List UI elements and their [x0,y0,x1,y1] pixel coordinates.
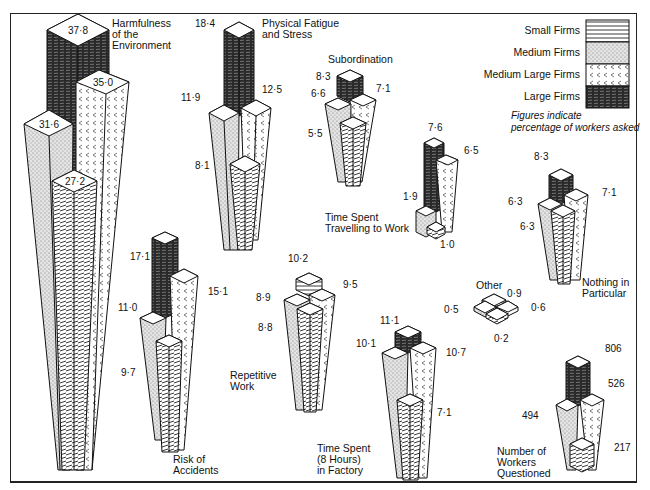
value-medium-large: 9·5 [343,279,358,290]
value-small: 8·1 [195,160,210,171]
value-small: 27·2 [65,176,85,187]
group-label: Other [476,279,503,291]
value-medium: 11·0 [118,302,138,313]
group-risk-of-accidents: 17·1 15·1 11·0 9·7 Risk of Accidents [118,232,228,476]
value-large: 11·1 [380,315,400,326]
value-large: 806 [605,343,622,354]
legend-label-medium-large-firms: Medium Large Firms [484,68,580,80]
group-harmfulness: 37·8 35·0 31·6 27·2 Harmfulness of the E… [24,14,171,470]
group-repetitive-work: 10·2 9·5 8·9 8·8 Repetitive Work [230,253,358,412]
value-large: 8·3 [534,151,549,162]
value-medium-large: 6·5 [464,145,479,156]
legend-swatch-medium-firms [586,42,629,64]
value-large: 37·8 [68,25,88,36]
value-medium: 31·6 [39,119,59,130]
value-medium-large: 12·5 [262,84,282,95]
group-label: Subordination [328,53,393,65]
value-medium-large: 0·6 [531,302,546,313]
value-small: 217 [614,442,631,453]
value-large: 8·3 [316,71,331,82]
value-small: 1·0 [440,239,455,250]
value-medium: 6·6 [311,88,326,99]
isometric-bar-chart: 37·8 35·0 31·6 27·2 Harmfulness of the E… [0,0,650,490]
value-large: 0·9 [507,288,522,299]
value-large: 10·2 [288,253,308,264]
value-medium-large: 10·7 [446,347,466,358]
group-nothing-in-particular: 8·3 7·1 6·3 6·3 Nothing in Particular [508,151,629,299]
group-other: 0·9 0·6 0·5 0·2 Other [444,279,546,344]
legend-label-large-firms: Large Firms [524,90,580,102]
value-large: 7·6 [428,122,443,133]
value-medium: 6·3 [508,196,523,207]
value-small: 8·8 [258,322,273,333]
group-time-in-factory: 11·1 10·7 10·1 7·1 Time Spent (8 Hours) … [317,315,466,480]
value-small: 6·3 [520,221,535,232]
legend-swatch-medium-large-firms [586,64,629,86]
legend-label-small-firms: Small Firms [525,24,580,36]
legend-swatch-large-firms [586,86,629,108]
group-label-line2: Travelling to Work [325,222,410,234]
value-medium: 8·9 [256,292,271,303]
value-large: 17·1 [130,251,150,262]
value-medium-large: 526 [608,378,625,389]
value-small: 9·7 [121,367,136,378]
value-medium: 0·5 [444,304,459,315]
value-small: 5·5 [308,128,323,139]
group-subordination: 8·3 7·1 6·6 5·5 Subordination [308,53,393,186]
legend-swatch-small-firms [586,20,629,42]
group-label-line3: in Factory [317,464,364,476]
group-label-line3: Questioned [497,467,551,479]
value-small: 7·1 [437,407,452,418]
value-medium-large: 35·0 [93,77,113,88]
value-medium-large: 15·1 [208,286,228,297]
group-label-line2: Particular [582,287,627,299]
value-medium: 494 [522,410,539,421]
legend-note: Figures indicate [511,110,582,121]
value-small: 0·2 [494,333,509,344]
group-label-line2: and Stress [262,28,312,40]
group-workers-questioned: 806 526 494 217 Number of Workers Questi… [497,343,631,479]
value-medium: 1·9 [403,191,418,202]
legend-note-line2: percentage of workers asked [510,122,640,133]
legend-label-medium-firms: Medium Firms [513,46,580,58]
value-medium-large: 7·1 [602,187,617,198]
legend: Small Firms Medium Firms Medium Large Fi… [484,20,640,133]
group-label-line3: Environment [112,39,171,51]
value-medium: 11·9 [181,92,201,103]
value-large: 18·4 [195,18,215,29]
value-medium: 10·1 [356,338,376,349]
group-label-line2: Accidents [173,464,219,476]
value-medium-large: 7·1 [376,83,391,94]
group-label-line2: Work [230,380,255,392]
